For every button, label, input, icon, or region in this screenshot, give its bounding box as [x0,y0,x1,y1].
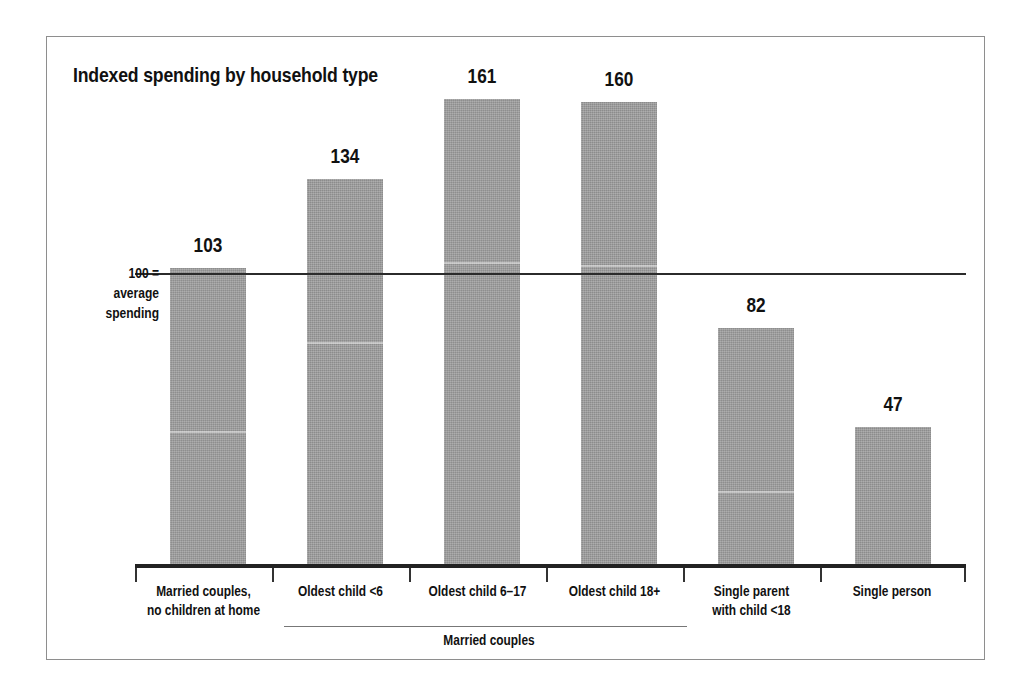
category-label-line2: no children at home [145,601,261,620]
axis-baseline [135,564,966,568]
chart-frame: Indexed spending by household type 103 1… [46,36,985,660]
reference-line-100 [135,273,966,275]
axis-tick [135,568,137,582]
category-label-line2: with child <18 [693,601,809,620]
category-label-single-person: Single person [831,582,953,601]
reference-label-line3: spending [63,303,159,323]
bar-value-label: 134 [314,144,376,168]
category-label-single-parent: Single parent with child <18 [693,582,809,620]
axis-tick [409,568,411,582]
bar-single-person [855,427,931,564]
bar-oldest-child-under-6 [307,179,383,564]
category-label-line1: Oldest child 6–17 [419,582,535,601]
category-label-oldest-child-under-6: Oldest child <6 [282,582,398,601]
bar-oldest-child-18-plus [581,102,657,564]
category-label-married-no-children: Married couples, no children at home [145,582,261,620]
group-label-married-couples: Married couples [421,632,557,648]
bar-value-label: 82 [725,293,787,317]
bar-single-parent [718,328,794,564]
axis-tick [683,568,685,582]
category-label-line1: Married couples, [145,582,261,601]
bar-married-no-children [170,268,246,564]
category-label-oldest-child-18-plus: Oldest child 18+ [556,582,672,601]
reference-label-line1: 100 = [63,263,159,283]
chart-page: Indexed spending by household type 103 1… [0,0,1030,696]
axis-tick [820,568,822,582]
category-label-line1: Oldest child 18+ [556,582,672,601]
axis-tick [272,568,274,582]
category-label-line1: Single parent [693,582,809,601]
axis-tick [964,568,966,582]
plot-area: 103 134 161 160 82 47 100 = average spen… [47,37,984,659]
axis-tick [546,568,548,582]
bar-value-label: 160 [588,67,650,91]
bar-value-label: 47 [862,392,924,416]
bar-oldest-child-6-17 [444,99,520,564]
category-label-line1: Oldest child <6 [282,582,398,601]
bar-value-label: 161 [451,64,513,88]
category-label-line1: Single person [831,582,953,601]
reference-line-label: 100 = average spending [63,263,159,323]
category-label-oldest-child-6-17: Oldest child 6–17 [419,582,535,601]
group-underline-married-couples [284,626,687,627]
reference-label-line2: average [63,283,159,303]
bar-value-label: 103 [177,233,239,257]
